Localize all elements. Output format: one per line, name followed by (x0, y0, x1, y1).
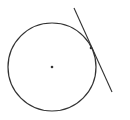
center-point (51, 66, 54, 69)
diagram-canvas (0, 0, 130, 120)
circle-tangent-diagram (0, 0, 130, 120)
tangent-line (74, 8, 112, 92)
tangent-point (90, 47, 93, 50)
